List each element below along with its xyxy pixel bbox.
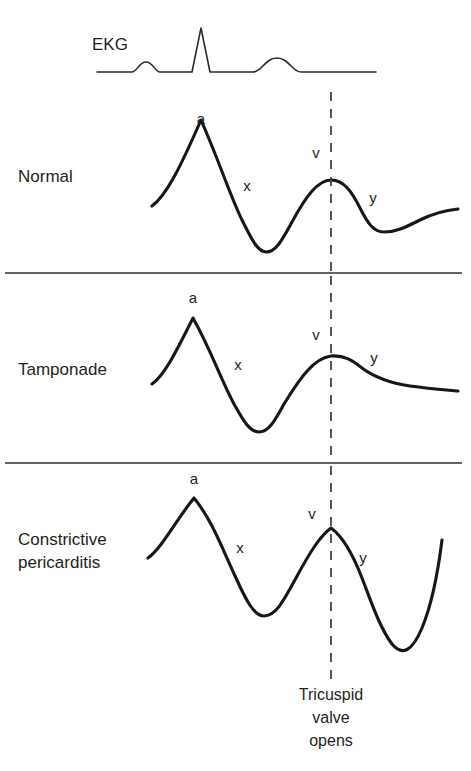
tricuspid-caption: Tricuspid valve opens	[299, 686, 363, 749]
panel-tamponade: Tamponade a x v y	[18, 289, 458, 432]
wave-label-v-constrictive: v	[308, 505, 316, 522]
waveform-trace-normal	[152, 120, 458, 252]
panel-label-normal: Normal	[18, 167, 73, 186]
panel-constrictive: Constrictive pericarditis a x v y	[18, 470, 442, 651]
caption-line-3: opens	[309, 732, 353, 749]
waveform-trace-tamponade	[152, 318, 458, 432]
wave-label-v-tamponade: v	[312, 326, 320, 343]
wave-label-a-constrictive: a	[190, 470, 199, 487]
panel-label-tamponade: Tamponade	[18, 360, 107, 379]
waveform-trace-constrictive	[148, 498, 442, 651]
panel-label-constrictive-line1: Constrictive	[18, 530, 107, 549]
wave-label-a-tamponade: a	[189, 289, 198, 306]
panel-normal: Normal a x v y	[18, 110, 458, 252]
ekg-panel: EKG	[92, 28, 376, 72]
wave-label-a-normal: a	[197, 110, 206, 127]
wave-label-x-constrictive: x	[236, 539, 244, 556]
wave-label-y-tamponade: y	[370, 349, 378, 366]
ekg-trace	[97, 28, 376, 72]
wave-label-y-normal: y	[369, 189, 377, 206]
caption-line-2: valve	[312, 709, 349, 726]
wave-label-x-tamponade: x	[234, 356, 242, 373]
panel-label-constrictive-line2: pericarditis	[18, 553, 100, 572]
wave-label-x-normal: x	[243, 177, 251, 194]
jvp-waveform-figure: EKG Normal a x v y Tamponade a x v y Con…	[0, 0, 471, 771]
wave-label-v-normal: v	[312, 144, 320, 161]
wave-label-y-constrictive: y	[359, 549, 367, 566]
ekg-label: EKG	[92, 35, 128, 54]
caption-line-1: Tricuspid	[299, 686, 363, 703]
